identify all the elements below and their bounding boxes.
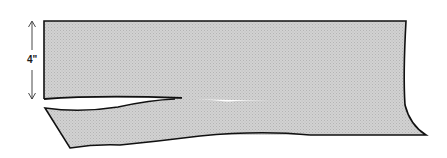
dimension-indicator: 4" [27, 21, 38, 99]
fabric-piece-diagram: 4" [0, 0, 447, 158]
slit-upper-edge [44, 97, 182, 99]
dimension-label: 4" [27, 54, 38, 65]
